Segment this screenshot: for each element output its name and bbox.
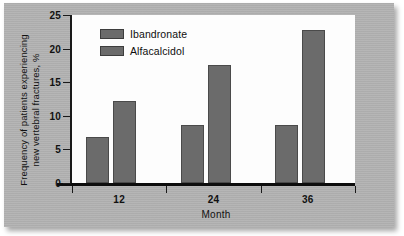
y-axis-title-line-1: Frequency of patients experiencing	[18, 20, 30, 200]
y-tick-label: 0	[55, 178, 61, 189]
y-tick-label: 15	[49, 77, 61, 88]
x-axis-title: Month	[0, 209, 404, 220]
legend-label-ibandronate: Ibandronate	[130, 28, 187, 40]
figure-container: 0510152025 122436 Frequency of patients …	[0, 0, 404, 236]
y-axis-title-line-2: new vertebral fractures, %	[30, 20, 42, 200]
y-tick-mark	[63, 82, 71, 83]
bar-alfacalcidol-12	[113, 101, 136, 183]
x-tick-label: 36	[302, 194, 314, 205]
y-tick-label: 25	[49, 10, 61, 21]
bar-ibandronate-36	[275, 125, 298, 183]
y-tick-mark	[63, 49, 71, 50]
x-tick-label: 24	[208, 194, 220, 205]
y-tick-label: 20	[49, 43, 61, 54]
legend-label-alfacalcidol: Alfacalcidol	[130, 45, 184, 57]
legend-swatch-icon-ibandronate	[100, 29, 124, 39]
y-tick-label: 10	[49, 110, 61, 121]
bar-alfacalcidol-24	[208, 65, 231, 183]
y-axis-line	[70, 15, 72, 184]
x-axis-line	[57, 183, 355, 186]
bar-alfacalcidol-36	[302, 30, 325, 183]
x-tick-mark	[261, 186, 262, 193]
y-axis-title: Frequency of patients experiencing new v…	[18, 20, 42, 200]
chart-legend: Ibandronate Alfacalcidol	[100, 27, 187, 61]
y-tick-mark	[63, 116, 71, 117]
y-tick-mark	[63, 183, 71, 184]
x-axis-title-text: Month	[202, 209, 231, 220]
x-tick-mark-edge	[355, 186, 356, 193]
y-tick-mark	[63, 149, 71, 150]
legend-item-ibandronate: Ibandronate	[100, 27, 187, 41]
y-tick-mark	[63, 15, 71, 16]
legend-swatch-icon-alfacalcidol	[100, 46, 124, 56]
x-tick-mark-edge	[72, 186, 73, 193]
bar-ibandronate-12	[86, 137, 109, 183]
x-tick-label: 12	[113, 194, 125, 205]
legend-item-alfacalcidol: Alfacalcidol	[100, 44, 187, 58]
x-tick-mark	[166, 186, 167, 193]
bar-ibandronate-24	[181, 125, 204, 183]
y-tick-label: 5	[55, 144, 61, 155]
